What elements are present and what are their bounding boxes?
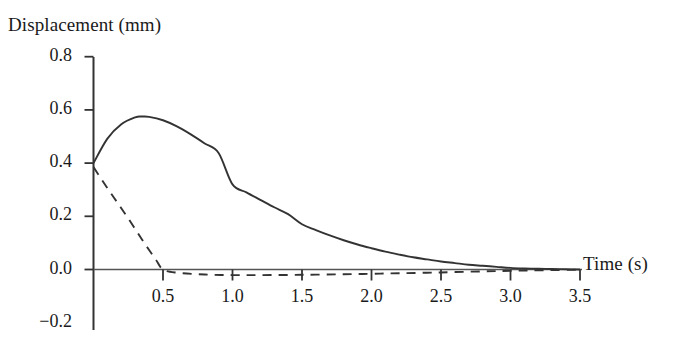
y-tick-label: 0.2 bbox=[14, 204, 72, 225]
y-tick-label: 0.4 bbox=[14, 151, 72, 172]
x-tick-label: 2.5 bbox=[419, 286, 463, 307]
x-tick-label: 0.5 bbox=[141, 286, 185, 307]
displacement-vs-time-chart: Displacement (mm) Time (s) 0.80.60.40.20… bbox=[0, 0, 677, 353]
dashed-curve bbox=[94, 167, 581, 275]
y-tick-label: 0.6 bbox=[14, 98, 72, 119]
data-series-layer bbox=[94, 116, 581, 275]
y-axis-ticks bbox=[85, 57, 94, 270]
y-tick-label: −0.2 bbox=[14, 311, 72, 332]
y-tick-label: 0.0 bbox=[14, 258, 72, 279]
x-tick-label: 3.0 bbox=[489, 286, 533, 307]
solid-curve bbox=[94, 116, 581, 269]
x-tick-label: 1.5 bbox=[280, 286, 324, 307]
x-tick-label: 3.5 bbox=[558, 286, 602, 307]
y-tick-label: 0.8 bbox=[14, 45, 72, 66]
x-tick-label: 1.0 bbox=[211, 286, 255, 307]
x-tick-label: 2.0 bbox=[350, 286, 394, 307]
x-axis-ticks bbox=[163, 270, 580, 281]
